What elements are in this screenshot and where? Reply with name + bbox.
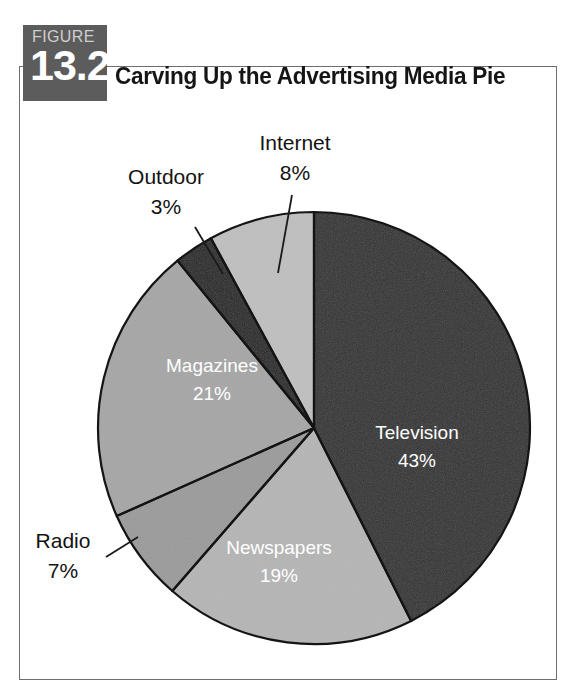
slice-label-radio-value: 7% [48, 559, 78, 582]
slice-label-newspapers-value: 19% [260, 565, 298, 586]
slice-label-magazines-name: Magazines [166, 355, 258, 376]
slice-label-internet-name: Internet [259, 131, 330, 154]
figure-container: FIGURE 13.2 Carving Up the Advertising M… [0, 0, 576, 698]
slice-label-outdoor-value: 3% [151, 195, 181, 218]
slice-label-magazines-value: 21% [193, 383, 231, 404]
slice-label-newspapers-name: Newspapers [226, 537, 332, 558]
pie-chart-area: Television 43% Newspapers 19% Magazines … [20, 67, 556, 679]
slice-label-television-value: 43% [398, 450, 436, 471]
pie-chart-svg: Television 43% Newspapers 19% Magazines … [20, 67, 556, 679]
slice-label-radio-name: Radio [36, 529, 91, 552]
slice-label-television-name: Television [375, 422, 458, 443]
slice-label-outdoor-name: Outdoor [128, 165, 204, 188]
figure-title: Carving Up the Advertising Media Pie [115, 64, 505, 88]
figure-badge-number: 13.2 [30, 44, 110, 87]
slice-label-internet-value: 8% [280, 161, 310, 184]
figure-number-badge: FIGURE 13.2 [23, 25, 107, 101]
